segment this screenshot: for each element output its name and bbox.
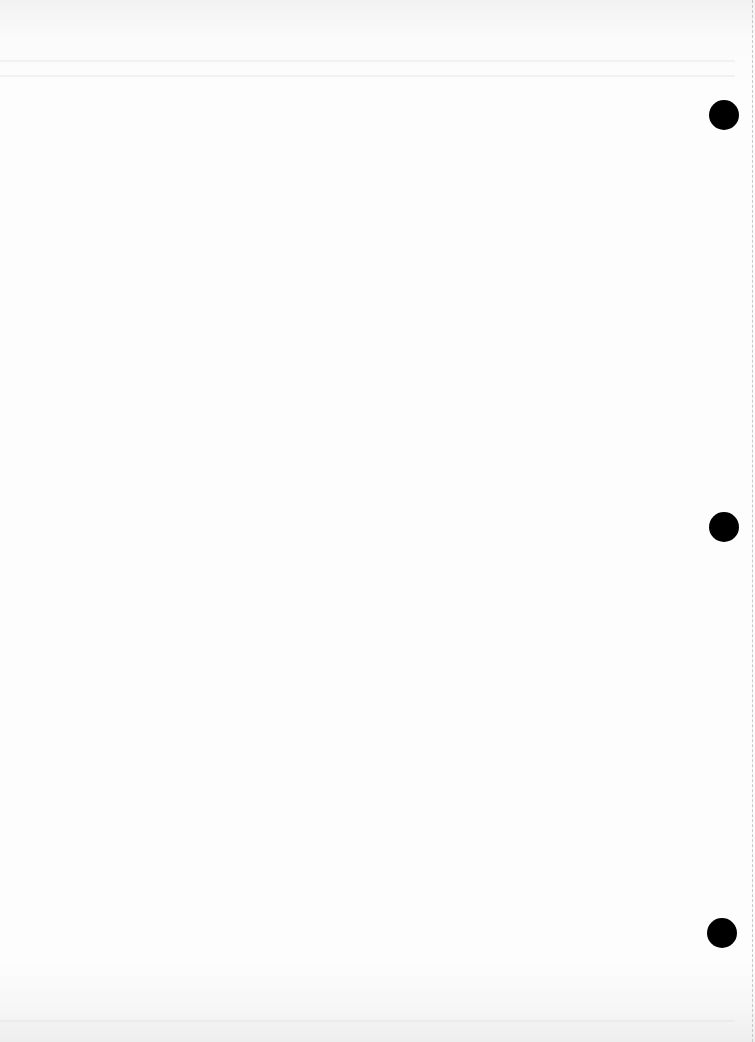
punch-hole-top (709, 100, 739, 130)
bleed-through-line (0, 75, 735, 77)
page-edge (752, 0, 753, 1042)
punch-hole-bottom (707, 918, 737, 948)
scanned-page (0, 0, 755, 1042)
bleed-through-line (0, 60, 735, 62)
punch-hole-middle (709, 512, 739, 542)
bleed-through-line (0, 1020, 735, 1022)
